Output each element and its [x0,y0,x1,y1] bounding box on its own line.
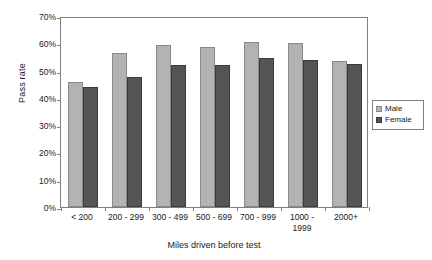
x-axis-tick-label: 2000+ [324,212,368,223]
bar-male [244,42,259,207]
x-axis-tick-mark [369,207,370,211]
bar-group [237,18,281,207]
x-axis-tick-labels: < 200200 - 299300 - 499500 - 699700 - 99… [60,212,368,242]
y-axis-tick-label: 10% [16,177,56,186]
bar-chart: Pass rate 70%60%50%40%30%20%10%0% < 2002… [0,0,432,260]
x-axis-tick-mark [325,207,326,211]
male-swatch-icon [376,106,382,112]
female-swatch-icon [376,117,382,123]
y-axis-tick-mark [57,182,61,183]
bar-female [303,60,318,207]
x-axis-tick-label: < 200 [60,212,104,223]
x-axis-tick-mark [149,207,150,211]
bar-group [149,18,193,207]
bar-female [259,58,274,207]
bar-female [347,64,362,207]
bar-male [112,53,127,207]
y-axis-tick-label: 70% [16,13,56,22]
plot-area [60,17,368,208]
y-axis-tick-label: 50% [16,68,56,77]
x-axis-tick-label: 200 - 299 [104,212,148,223]
y-axis-tick-label: 30% [16,122,56,131]
x-axis-tick-label: 500 - 699 [192,212,236,223]
y-axis-tick-mark [57,45,61,46]
x-axis-tick-label: 700 - 999 [236,212,280,223]
bar-male [332,61,347,207]
x-axis-tick-mark [281,207,282,211]
x-axis-tick-mark [237,207,238,211]
bar-group [325,18,369,207]
bar-group [193,18,237,207]
bar-male [200,47,215,207]
y-axis-tick-mark [57,154,61,155]
bar-male [156,45,171,207]
y-axis-tick-label: 60% [16,40,56,49]
y-axis-tick-mark [57,100,61,101]
legend-item-female: Female [376,115,421,125]
legend-label: Female [385,115,412,125]
y-axis-tick-label: 20% [16,149,56,158]
bar-series-container [61,18,367,207]
y-axis-tick-label: 40% [16,95,56,104]
x-axis-tick-mark [105,207,106,211]
bar-group [61,18,105,207]
chart-legend: MaleFemale [372,100,424,130]
bar-group [105,18,149,207]
y-axis-tick-mark [57,73,61,74]
x-axis-tick-mark [193,207,194,211]
x-axis-tick-mark [61,207,62,211]
legend-item-male: Male [376,104,421,114]
legend-label: Male [385,104,402,114]
x-axis-tick-label: 300 - 499 [148,212,192,223]
bar-female [171,65,186,207]
bar-female [215,65,230,207]
y-axis-tick-label: 0% [16,204,56,213]
y-axis-tick-mark [57,127,61,128]
bar-group [281,18,325,207]
bar-male [288,43,303,207]
bar-male [68,82,83,208]
bar-female [83,87,98,207]
y-axis-tick-labels: 70%60%50%40%30%20%10%0% [14,0,56,260]
bar-female [127,77,142,207]
x-axis-title: Miles driven before test [60,240,368,250]
y-axis-tick-mark [57,18,61,19]
x-axis-tick-label: 1000 - 1999 [280,212,324,234]
